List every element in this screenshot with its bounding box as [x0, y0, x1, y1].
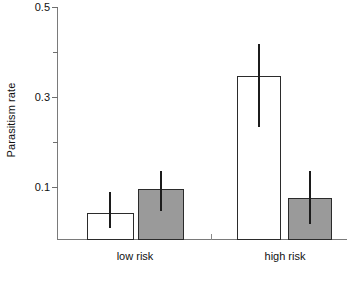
y-tick-label-0.5-wrap: 0.5: [14, 2, 50, 13]
errorbar-high-risk-open: [258, 44, 260, 127]
y-tick-label-0.3: 0.3: [16, 92, 50, 103]
y-tick-label-0.5: 0.5: [16, 2, 50, 13]
y-tick-label-0.1-wrap: 0.1: [14, 182, 50, 193]
errorbar-high-risk-filled: [309, 171, 311, 224]
y-tick-0.5: [52, 7, 58, 8]
errorbar-low-risk-filled: [160, 171, 162, 211]
y-tick-label-0.3-wrap: 0.3: [14, 92, 50, 103]
x-axis-group-separator-tick: [211, 234, 212, 240]
y-tick-minor-0.2: [53, 142, 58, 143]
parasitism-rate-bar-chart: Parasitism rate 0.5 0.3 0.1 low risk hig…: [0, 0, 357, 297]
x-axis-label-high-risk: high risk: [235, 250, 335, 262]
x-axis-label-low-risk: low risk: [85, 250, 185, 262]
y-tick-minor-0.4: [53, 52, 58, 53]
y-tick-label-0.1: 0.1: [16, 182, 50, 193]
y-axis-title: Parasitism rate: [2, 0, 20, 239]
y-axis-line: [57, 7, 58, 240]
y-tick-0.1: [52, 187, 58, 188]
y-tick-0.3: [52, 97, 58, 98]
errorbar-low-risk-open: [109, 192, 111, 228]
